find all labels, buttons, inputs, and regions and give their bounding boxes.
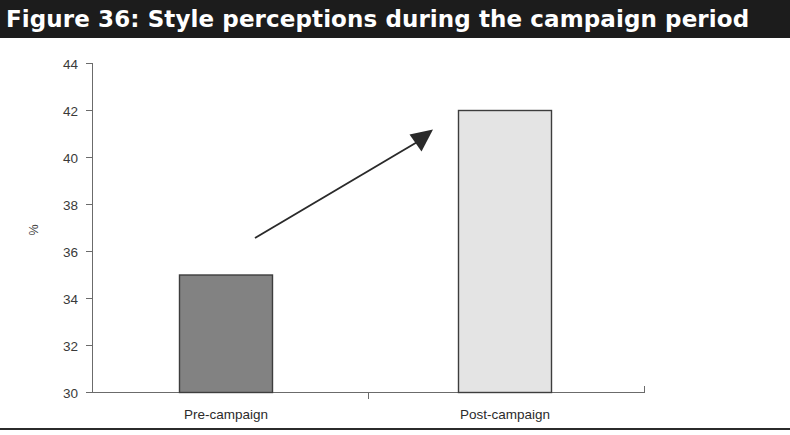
- x-category-label-pre-campaign: Pre-campaign: [184, 407, 268, 422]
- y-tick-label-38: 38: [63, 198, 78, 213]
- y-axis-title: %: [27, 224, 41, 235]
- upward-trend-arrow-icon: [255, 130, 433, 239]
- page-title: Figure 36: Style perceptions during the …: [6, 6, 749, 32]
- bar-post-campaign[interactable]: [459, 111, 552, 393]
- y-tick-label-32: 32: [63, 339, 78, 354]
- bar-pre-campaign[interactable]: [180, 275, 273, 393]
- bar-chart-figure: 44 42 40 38 36 34 32 30 % Pre-campaign P…: [0, 38, 790, 435]
- y-tick-label-44: 44: [63, 57, 79, 72]
- y-tick-label-36: 36: [63, 245, 78, 260]
- y-tick-label-40: 40: [63, 151, 78, 166]
- figure-bottom-rule: [0, 428, 790, 430]
- chart-canvas: 44 42 40 38 36 34 32 30 % Pre-campaign P…: [0, 38, 790, 435]
- y-tick-label-34: 34: [63, 292, 79, 307]
- x-category-label-post-campaign: Post-campaign: [460, 407, 550, 422]
- y-tick-label-30: 30: [63, 386, 78, 401]
- figure-title-banner: Figure 36: Style perceptions during the …: [0, 0, 790, 38]
- y-tick-label-42: 42: [63, 104, 78, 119]
